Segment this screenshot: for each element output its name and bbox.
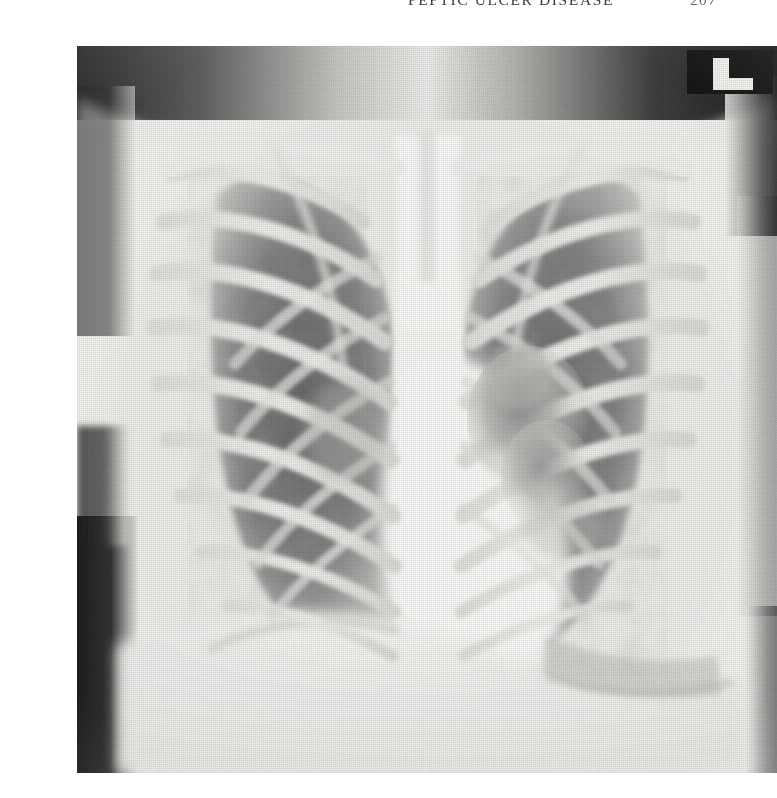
chest-radiograph-figure	[77, 46, 777, 773]
radiograph-image	[77, 46, 777, 773]
page-running-header: PEPTIC ULCER DISEASE 207	[0, 0, 776, 9]
print-grain	[77, 46, 777, 773]
page-title: PEPTIC ULCER DISEASE	[408, 0, 614, 9]
radiograph-plate	[77, 46, 777, 773]
page-number: 207	[690, 0, 717, 9]
